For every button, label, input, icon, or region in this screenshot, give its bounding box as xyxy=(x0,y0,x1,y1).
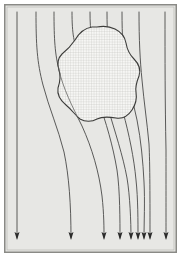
figure-root xyxy=(0,0,181,257)
flow-diagram xyxy=(0,0,181,257)
